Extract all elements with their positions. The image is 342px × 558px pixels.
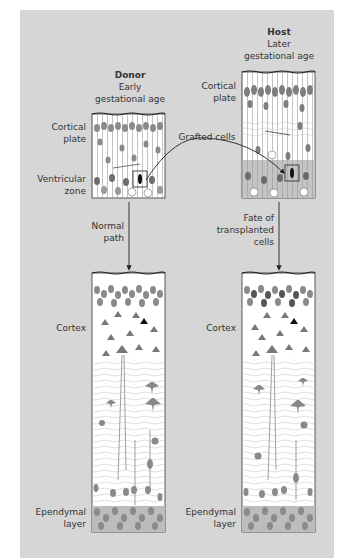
ventricular-zone-label-2: zone [20, 186, 86, 197]
fate-label-3: cells [205, 237, 274, 248]
host-subtitle-2: gestational age [234, 51, 324, 62]
normal-path-label-1: Normal [80, 221, 124, 232]
host-cortex-label: Cortex [180, 323, 236, 334]
fate-label-2: transplanted [205, 225, 274, 236]
host-tissue-box [242, 71, 315, 198]
donor-cortical-plate-label-1: Cortical [30, 122, 86, 133]
host-result-box [242, 272, 315, 532]
donor-ependymal-label-1: Ependymal [20, 507, 86, 518]
grafted-cells-label: Grafted cells [170, 132, 244, 143]
host-title: Host [250, 27, 308, 38]
host-subtitle-1: Later [250, 39, 308, 50]
host-cortical-plate-label-1: Cortical [180, 81, 236, 92]
host-ependymal-label-2: layer [170, 519, 236, 530]
normal-path-label-2: path [80, 233, 124, 244]
donor-subtitle-2: gestational age [85, 94, 175, 105]
ventricular-zone-label-1: Ventricular [20, 174, 86, 185]
donor-tissue-box [92, 113, 165, 198]
donor-ependymal-label-2: layer [20, 519, 86, 530]
fate-label-1: Fate of [205, 213, 274, 224]
host-cortical-plate-label-2: plate [180, 93, 236, 104]
donor-title: Donor [100, 70, 160, 81]
donor-subtitle-1: Early [100, 82, 160, 93]
host-ependymal-label-1: Ependymal [170, 507, 236, 518]
donor-cortical-plate-label-2: plate [30, 134, 86, 145]
diagram-illustration [0, 0, 342, 558]
donor-result-box [92, 272, 165, 532]
donor-cortex-label: Cortex [30, 323, 86, 334]
